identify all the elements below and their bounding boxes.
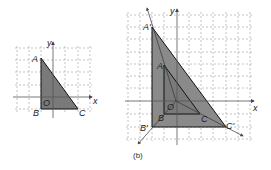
vertex-a: A (156, 61, 163, 71)
left-vertex-a: A (31, 54, 38, 64)
left-vertex-b: B (33, 108, 39, 118)
right-x-label: x (252, 103, 258, 113)
vertex-c-prime: C' (226, 121, 234, 131)
right-y-label: y (169, 6, 175, 16)
right-origin-label: O (167, 102, 174, 112)
left-x-label: x (92, 96, 98, 106)
vertex-b-prime: B' (140, 123, 148, 133)
left-panel: y x A B C O (13, 38, 98, 118)
caption-b: (b) (133, 151, 143, 160)
left-y-label: y (46, 38, 52, 48)
dilation-figure: y x A B C O (0, 0, 271, 170)
left-vertex-c: C (79, 108, 86, 118)
vertex-a-prime: A' (142, 22, 151, 32)
left-origin-label: O (43, 98, 50, 108)
vertex-b: B (158, 113, 164, 123)
vertex-c: C (201, 114, 208, 124)
right-panel: y x A' B' C' A B C O (b) (125, 6, 258, 160)
